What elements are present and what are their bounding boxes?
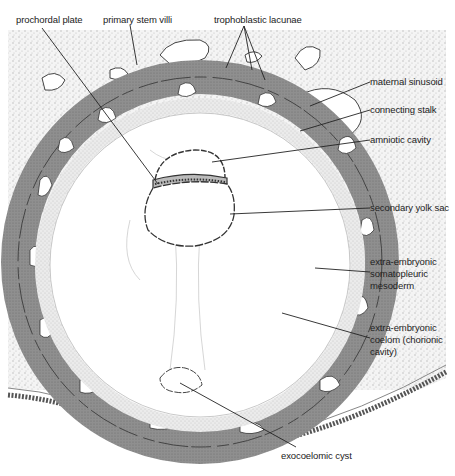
label-extra-embryonic-mesoderm-2: somatopleuric xyxy=(370,268,428,279)
label-connecting-stalk: connecting stalk xyxy=(370,104,437,115)
label-amniotic-cavity: amniotic cavity xyxy=(370,134,431,145)
label-extra-embryonic-mesoderm-3: mesoderm xyxy=(370,280,414,291)
label-maternal-sinusoid: maternal sinusoid xyxy=(370,76,443,87)
label-extra-embryonic-coelom-2: coelom (chorionic xyxy=(370,334,443,345)
diagram-canvas: prochordal plate primary stem villi trop… xyxy=(0,0,455,476)
label-primary-stem-villi: primary stem villi xyxy=(103,14,172,25)
label-extra-embryonic-mesoderm-1: extra-embryonic xyxy=(370,256,437,267)
label-secondary-yolk-sac: secondary yolk sac xyxy=(370,202,449,213)
label-prochordal-plate: prochordal plate xyxy=(16,14,83,25)
label-exocoelomic-cyst: exocoelomic cyst xyxy=(281,450,352,461)
label-extra-embryonic-coelom-1: extra-embryonic xyxy=(370,322,437,333)
label-extra-embryonic-coelom-3: cavity) xyxy=(370,346,397,357)
label-trophoblastic-lacunae: trophoblastic lacunae xyxy=(214,14,302,25)
blastocyst-illustration xyxy=(0,0,455,476)
